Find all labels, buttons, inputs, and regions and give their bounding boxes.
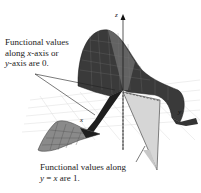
annotation-top-line1: Functional values: [5, 37, 69, 48]
y-axis-label: y: [178, 108, 181, 116]
annotation-bottom-line2: y = x are 1.: [40, 173, 126, 184]
x-axis-label: x: [80, 116, 83, 124]
annotation-top-line2: along x-axis or: [5, 48, 69, 59]
annotation-axis-values-zero: Functional values along x-axis or y-axis…: [5, 37, 69, 69]
annotation-diagonal-values-one: Functional values along y = x are 1.: [40, 162, 126, 183]
z-axis-arrow-icon: [121, 14, 126, 20]
y-equals-x-wedge: [123, 92, 160, 170]
annotation-bottom-line1: Functional values along: [40, 162, 126, 173]
z-axis-label: z: [115, 11, 118, 19]
annotation-top-line3: y-axis are 0.: [5, 58, 69, 69]
bottom-annotation-pointers: [136, 146, 145, 162]
